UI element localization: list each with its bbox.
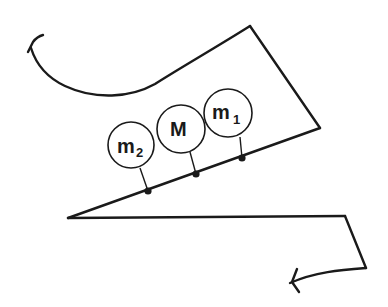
mass-m1-subscript: 1 (233, 112, 240, 127)
mass-m1: m 1 (204, 89, 252, 137)
upper-arrowhead-icon (28, 35, 43, 52)
joint-dot-m1 (238, 154, 245, 161)
mass-m2: m 2 (108, 122, 154, 168)
rod-m2 (140, 168, 148, 191)
joint-dot-m2 (144, 187, 151, 194)
joint-dot-M (192, 170, 199, 177)
mass-m1-label: m (212, 101, 230, 123)
mass-M-label: M (170, 118, 187, 140)
upper-edge-right (250, 26, 320, 128)
incline-diagram: m 2 M m 1 (0, 0, 388, 307)
lower-curved-arrow (290, 268, 366, 283)
mass-m2-label: m (117, 135, 135, 157)
mass-M: M (157, 105, 205, 153)
mass-m2-subscript: 2 (136, 145, 143, 160)
upper-curved-arrow (31, 26, 250, 96)
base-line (68, 216, 345, 218)
lower-edge-right (345, 216, 366, 268)
